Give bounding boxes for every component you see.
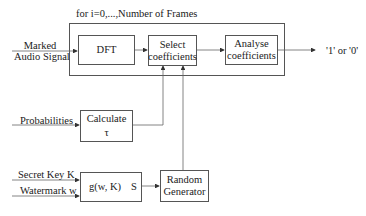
- g-function-label: g(w, K): [89, 181, 121, 193]
- select-label-line1: Select: [160, 39, 186, 51]
- random-label-line1: Random: [167, 174, 203, 186]
- secret-key-label: Secret Key K: [18, 169, 75, 180]
- marked-label-line2: Audio Signal: [14, 51, 66, 62]
- random-label-line2: Generator: [164, 186, 206, 198]
- analyse-coefficients-block: Analyse coefficients: [225, 35, 278, 65]
- tau-symbol: τ: [104, 127, 108, 139]
- analyse-label-line2: coefficients: [227, 50, 276, 62]
- marked-audio-label: Marked Audio Signal: [14, 40, 66, 62]
- loop-title: for i=0,...,Number of Frames: [76, 8, 197, 19]
- select-label-line2: coefficients: [148, 51, 197, 63]
- random-generator-block: Random Generator: [160, 170, 209, 202]
- analyse-label-line1: Analyse: [234, 38, 268, 50]
- s-output-label: S: [131, 181, 137, 193]
- g-function-block: g(w, K) S: [80, 172, 142, 202]
- calculate-tau-block: Calculate τ: [80, 110, 133, 142]
- calculate-label: Calculate: [87, 113, 127, 125]
- probabilities-label: Probabilities: [20, 115, 73, 126]
- watermark-label: Watermark w: [20, 185, 77, 196]
- select-coefficients-block: Select coefficients: [148, 35, 197, 66]
- output-label: '1' or '0': [326, 45, 358, 56]
- dft-block: DFT: [78, 35, 135, 65]
- dft-label: DFT: [97, 44, 117, 56]
- marked-label-line1: Marked: [14, 40, 66, 51]
